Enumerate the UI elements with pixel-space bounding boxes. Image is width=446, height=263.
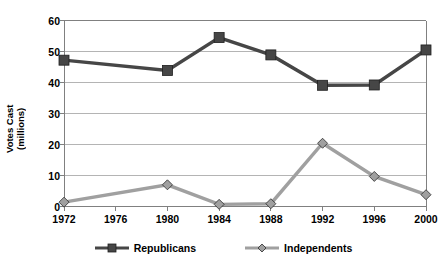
plot-area (0, 0, 446, 263)
data-point-marker-square (214, 33, 224, 43)
data-point-marker-diamond (258, 244, 266, 252)
data-point-marker-square (266, 50, 276, 60)
data-point-marker-diamond (214, 199, 224, 209)
legend-item-republicans[interactable]: Republicans (94, 241, 196, 255)
legend-item-independents[interactable]: Independents (244, 241, 352, 255)
series-line (64, 38, 426, 86)
series-republicans (59, 33, 431, 91)
chart-legend: RepublicansIndependents (0, 238, 446, 258)
data-point-marker-diamond (421, 190, 431, 200)
legend-label: Republicans (134, 243, 196, 254)
legend-swatch-independents (244, 241, 280, 255)
data-point-marker-diamond (59, 197, 69, 207)
data-point-marker-square (59, 55, 69, 65)
votes-cast-line-chart: Votes Cast (millions) 0102030405060 1972… (0, 0, 446, 263)
data-point-marker-square (421, 45, 431, 55)
x-axis-tick-marks (64, 207, 426, 211)
data-point-marker-square (318, 80, 328, 90)
data-point-marker-square (369, 80, 379, 90)
series-independents (59, 138, 431, 209)
data-series-layer (59, 33, 431, 210)
legend-label: Independents (284, 243, 352, 254)
data-point-marker-diamond (162, 180, 172, 190)
legend-swatch-republicans (94, 241, 130, 255)
data-point-marker-square (108, 244, 116, 252)
data-point-marker-square (162, 65, 172, 75)
